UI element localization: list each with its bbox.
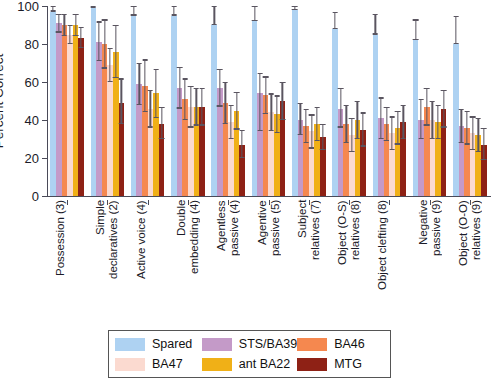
- legend-label: Spared: [152, 337, 192, 351]
- error-bar: [80, 27, 81, 48]
- error-bar: [362, 112, 363, 146]
- legend-item: BA46: [297, 337, 384, 351]
- error-bar: [64, 14, 65, 37]
- x-axis-tick: [389, 200, 390, 205]
- bar-slot: [119, 6, 125, 196]
- x-axis-tick-label: Negative passive (9): [417, 200, 442, 318]
- error-bar: [351, 118, 352, 152]
- y-axis-tick-label: 60: [25, 75, 39, 90]
- error-bar: [179, 67, 180, 109]
- y-axis-tick-label: 0: [32, 189, 39, 204]
- x-axis-tick-label: Object clefting (8): [376, 200, 389, 318]
- error-bar: [380, 97, 381, 139]
- error-bar: [155, 69, 156, 118]
- error-bar: [276, 95, 277, 133]
- error-bar: [196, 88, 197, 126]
- error-bar: [346, 105, 347, 143]
- error-bar: [104, 19, 105, 68]
- error-bar: [69, 25, 70, 44]
- legend-label: ant BA22: [239, 357, 290, 371]
- error-bar: [139, 63, 140, 105]
- x-axis-tick-label: Agentless passive (4): [215, 200, 240, 318]
- chart-legend: SparedSTS/BA39BA46BA47ant BA22MTG: [108, 330, 391, 378]
- error-bar: [311, 114, 312, 148]
- bar-group: [208, 6, 248, 196]
- error-bar: [115, 25, 116, 78]
- error-bar: [455, 16, 456, 45]
- legend-swatch: [297, 358, 327, 371]
- error-bar: [214, 6, 215, 25]
- error-bar: [437, 105, 438, 139]
- error-bar: [432, 101, 433, 139]
- y-axis-tick-label: 40: [25, 113, 39, 128]
- error-bar: [144, 59, 145, 112]
- bar-group: [409, 6, 449, 196]
- bar-group: [128, 6, 168, 196]
- bar-group: [450, 6, 490, 196]
- error-bar: [161, 107, 162, 139]
- bar-group: [87, 6, 127, 196]
- error-bar: [466, 111, 467, 145]
- error-bar: [294, 6, 295, 10]
- bar-group: [329, 6, 369, 196]
- legend-label: BA46: [334, 337, 365, 351]
- error-bar: [357, 101, 358, 139]
- bar-slot: [400, 6, 406, 196]
- error-bar: [110, 48, 111, 82]
- error-bar: [184, 78, 185, 120]
- error-bar: [483, 128, 484, 160]
- error-bar: [75, 14, 76, 37]
- error-bar: [386, 107, 387, 141]
- bar-slot: [199, 6, 205, 196]
- x-axis-tick: [67, 200, 68, 205]
- error-bar: [391, 116, 392, 150]
- bar-slot: [320, 6, 326, 196]
- error-bar: [254, 6, 255, 21]
- error-bar: [282, 82, 283, 120]
- x-axis-tick-label: Subject relatives (7): [296, 200, 321, 318]
- error-bar: [421, 99, 422, 139]
- y-axis-tick: [42, 196, 47, 197]
- y-axis-tick-label: 100: [17, 0, 39, 14]
- error-bar: [375, 14, 376, 35]
- legend-swatch: [115, 338, 145, 351]
- y-axis-tick-label: 20: [25, 151, 39, 166]
- bar-group: [168, 6, 208, 196]
- legend-item: BA47: [115, 357, 202, 371]
- error-bar: [52, 6, 53, 12]
- legend-swatch: [115, 358, 145, 371]
- bar: [78, 38, 84, 196]
- legend-swatch: [297, 338, 327, 351]
- x-axis-tick-label: Simple declaratives (2): [94, 200, 119, 318]
- error-bar: [133, 6, 134, 16]
- error-bar: [173, 6, 174, 16]
- error-bar: [150, 90, 151, 128]
- error-bar: [403, 105, 404, 139]
- bar-chart: Percent Correct 020406080100 Possession …: [0, 0, 498, 388]
- bar-slot: [441, 6, 447, 196]
- legend-item: MTG: [297, 357, 384, 371]
- error-bar: [219, 69, 220, 107]
- x-axis-tick-label: Active voice (4): [135, 200, 148, 318]
- error-bar: [322, 124, 323, 151]
- x-axis-tick-label: Agentive passive (5): [256, 200, 281, 318]
- error-bar: [300, 103, 301, 135]
- bar-group: [289, 6, 329, 196]
- legend-swatch: [202, 358, 232, 371]
- x-axis-label-group: Possession (3)Simple declaratives (2)Act…: [47, 200, 491, 320]
- error-bar: [98, 21, 99, 61]
- error-bar: [271, 93, 272, 131]
- error-bar: [397, 111, 398, 145]
- error-bar: [340, 88, 341, 128]
- error-bar: [242, 130, 243, 159]
- error-bar: [472, 116, 473, 150]
- bar-slot: [481, 6, 487, 196]
- bar-group: [248, 6, 288, 196]
- error-bar: [426, 88, 427, 126]
- legend-swatch: [202, 338, 232, 351]
- x-axis-tick: [148, 200, 149, 205]
- legend-item: Spared: [115, 337, 202, 351]
- error-bar: [461, 109, 462, 143]
- bar-slot: [360, 6, 366, 196]
- error-bar: [334, 12, 335, 29]
